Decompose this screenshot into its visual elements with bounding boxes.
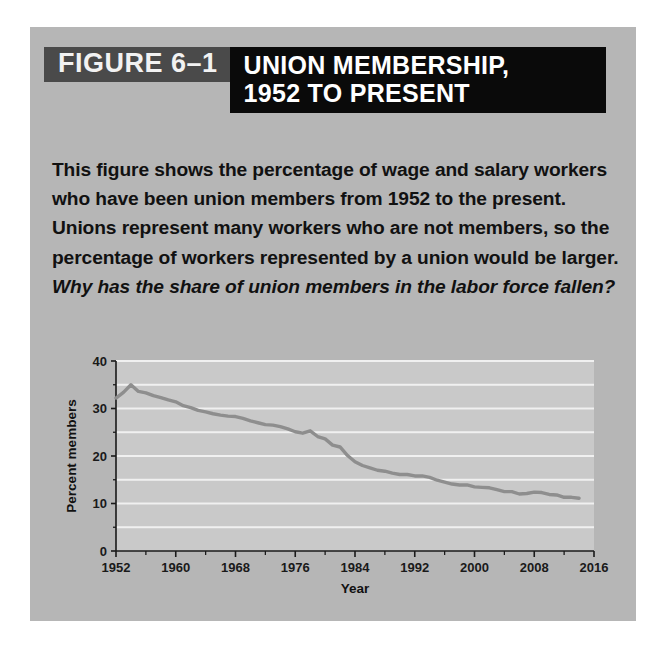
figure-caption: This figure shows the percentage of wage…	[52, 155, 620, 301]
figure-title: UNION MEMBERSHIP, 1952 TO PRESENT	[230, 47, 606, 113]
figure-header: FIGURE 6–1 UNION MEMBERSHIP, 1952 TO PRE…	[44, 47, 606, 113]
svg-text:1968: 1968	[221, 560, 250, 575]
svg-text:1960: 1960	[161, 560, 190, 575]
svg-text:2008: 2008	[520, 560, 549, 575]
union-membership-line-chart: 010203040 195219601968197619841992200020…	[54, 347, 614, 607]
y-axis-tick-labels: 010203040	[93, 354, 107, 559]
figure-number-label: FIGURE 6–1	[44, 47, 230, 82]
svg-text:Year: Year	[341, 581, 370, 596]
figure-card: FIGURE 6–1 UNION MEMBERSHIP, 1952 TO PRE…	[30, 27, 636, 621]
x-axis-tick-labels: 195219601968197619841992200020082016	[102, 560, 609, 575]
svg-text:1952: 1952	[102, 560, 131, 575]
svg-text:10: 10	[93, 496, 107, 511]
x-axis-title: Year	[341, 581, 370, 596]
svg-text:0: 0	[100, 544, 107, 559]
svg-text:40: 40	[93, 354, 107, 369]
svg-text:1992: 1992	[400, 560, 429, 575]
caption-body: This figure shows the percentage of wage…	[52, 159, 618, 268]
caption-question: Why has the share of union members in th…	[52, 276, 615, 297]
svg-text:2000: 2000	[460, 560, 489, 575]
chart-canvas: 010203040 195219601968197619841992200020…	[54, 347, 614, 607]
svg-text:1984: 1984	[341, 560, 371, 575]
svg-text:Percent members: Percent members	[64, 399, 79, 512]
y-axis-title: Percent members	[64, 399, 79, 512]
svg-text:30: 30	[93, 401, 107, 416]
svg-text:20: 20	[93, 449, 107, 464]
svg-text:1976: 1976	[281, 560, 310, 575]
svg-text:2016: 2016	[580, 560, 609, 575]
